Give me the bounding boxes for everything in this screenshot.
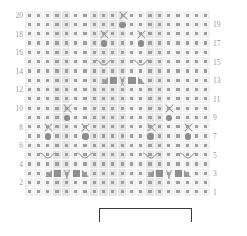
chart-cell[interactable] — [165, 188, 174, 197]
chart-cell[interactable] — [127, 160, 136, 169]
chart-cell[interactable] — [127, 169, 136, 178]
chart-cell[interactable] — [118, 188, 127, 197]
chart-cell[interactable] — [34, 20, 43, 29]
chart-cell[interactable] — [53, 48, 62, 57]
chart-cell[interactable] — [155, 20, 164, 29]
chart-cell[interactable] — [192, 11, 201, 20]
chart-cell[interactable] — [155, 85, 164, 94]
chart-cell[interactable] — [118, 123, 127, 132]
chart-cell[interactable] — [137, 85, 146, 94]
chart-cell[interactable] — [25, 113, 34, 122]
chart-cell[interactable] — [90, 178, 99, 187]
chart-cell[interactable] — [34, 169, 43, 178]
chart-cell[interactable] — [99, 178, 108, 187]
chart-cell[interactable] — [192, 141, 201, 150]
chart-cell[interactable] — [118, 30, 127, 39]
chart-cell[interactable] — [25, 123, 34, 132]
chart-cell[interactable] — [202, 141, 211, 150]
chart-cell[interactable] — [34, 48, 43, 57]
chart-cell[interactable] — [90, 95, 99, 104]
chart-cell[interactable] — [109, 178, 118, 187]
chart-cell[interactable] — [34, 58, 43, 67]
chart-cell[interactable] — [155, 160, 164, 169]
chart-cell[interactable] — [81, 160, 90, 169]
chart-cell[interactable] — [127, 188, 136, 197]
chart-cell[interactable] — [109, 30, 118, 39]
chart-cell[interactable] — [174, 39, 183, 48]
chart-cell[interactable] — [99, 188, 108, 197]
chart-cell[interactable] — [25, 48, 34, 57]
chart-cell[interactable] — [34, 141, 43, 150]
chart-cell[interactable] — [118, 48, 127, 57]
chart-cell[interactable] — [118, 58, 127, 67]
chart-cell[interactable] — [34, 39, 43, 48]
chart-cell[interactable] — [90, 11, 99, 20]
chart-cell[interactable] — [53, 188, 62, 197]
chart-cell[interactable] — [146, 48, 155, 57]
chart-cell[interactable] — [53, 132, 62, 141]
chart-cell[interactable] — [109, 48, 118, 57]
chart-cell[interactable] — [118, 151, 127, 160]
chart-cell[interactable] — [183, 11, 192, 20]
chart-cell[interactable] — [81, 188, 90, 197]
chart-cell[interactable] — [53, 58, 62, 67]
chart-cell[interactable] — [109, 85, 118, 94]
chart-cell[interactable] — [174, 104, 183, 113]
chart-cell[interactable] — [62, 141, 71, 150]
chart-cell[interactable] — [62, 178, 71, 187]
chart-cell[interactable] — [192, 132, 201, 141]
chart-cell[interactable] — [72, 67, 81, 76]
chart-cell[interactable] — [183, 67, 192, 76]
chart-cell[interactable] — [127, 113, 136, 122]
chart-cell[interactable] — [202, 58, 211, 67]
chart-cell[interactable] — [53, 123, 62, 132]
chart-cell[interactable] — [34, 104, 43, 113]
chart-cell[interactable] — [146, 141, 155, 150]
chart-cell[interactable] — [137, 169, 146, 178]
chart-cell[interactable] — [155, 132, 164, 141]
chart-cell[interactable] — [109, 123, 118, 132]
chart-cell[interactable] — [109, 113, 118, 122]
chart-cell[interactable] — [53, 20, 62, 29]
chart-cell[interactable] — [174, 20, 183, 29]
chart-cell[interactable] — [137, 178, 146, 187]
chart-cell[interactable] — [155, 58, 164, 67]
chart-cell[interactable] — [34, 76, 43, 85]
chart-cell[interactable] — [44, 85, 53, 94]
chart-cell[interactable] — [127, 151, 136, 160]
chart-cell[interactable] — [146, 76, 155, 85]
chart-cell[interactable] — [202, 39, 211, 48]
chart-cell[interactable] — [99, 141, 108, 150]
chart-cell[interactable] — [72, 132, 81, 141]
chart-cell[interactable] — [25, 30, 34, 39]
chart-cell[interactable] — [99, 11, 108, 20]
chart-cell[interactable] — [34, 95, 43, 104]
chart-cell[interactable] — [137, 141, 146, 150]
chart-cell[interactable] — [34, 160, 43, 169]
chart-cell[interactable] — [165, 160, 174, 169]
chart-cell[interactable] — [202, 30, 211, 39]
chart-cell[interactable] — [174, 132, 183, 141]
chart-cell[interactable] — [127, 95, 136, 104]
chart-cell[interactable] — [155, 113, 164, 122]
chart-cell[interactable] — [192, 39, 201, 48]
chart-cell[interactable] — [72, 39, 81, 48]
chart-cell[interactable] — [99, 85, 108, 94]
chart-cell[interactable] — [44, 95, 53, 104]
chart-cell[interactable] — [118, 85, 127, 94]
chart-cell[interactable] — [137, 188, 146, 197]
chart-cell[interactable] — [44, 39, 53, 48]
chart-cell[interactable] — [90, 132, 99, 141]
chart-cell[interactable] — [90, 67, 99, 76]
chart-cell[interactable] — [25, 39, 34, 48]
chart-cell[interactable] — [72, 30, 81, 39]
chart-cell[interactable] — [127, 11, 136, 20]
chart-cell[interactable] — [72, 188, 81, 197]
chart-cell[interactable] — [165, 123, 174, 132]
chart-cell[interactable] — [183, 58, 192, 67]
chart-cell[interactable] — [72, 85, 81, 94]
chart-cell[interactable] — [127, 104, 136, 113]
chart-cell[interactable] — [192, 30, 201, 39]
chart-cell[interactable] — [174, 76, 183, 85]
chart-cell[interactable] — [25, 95, 34, 104]
